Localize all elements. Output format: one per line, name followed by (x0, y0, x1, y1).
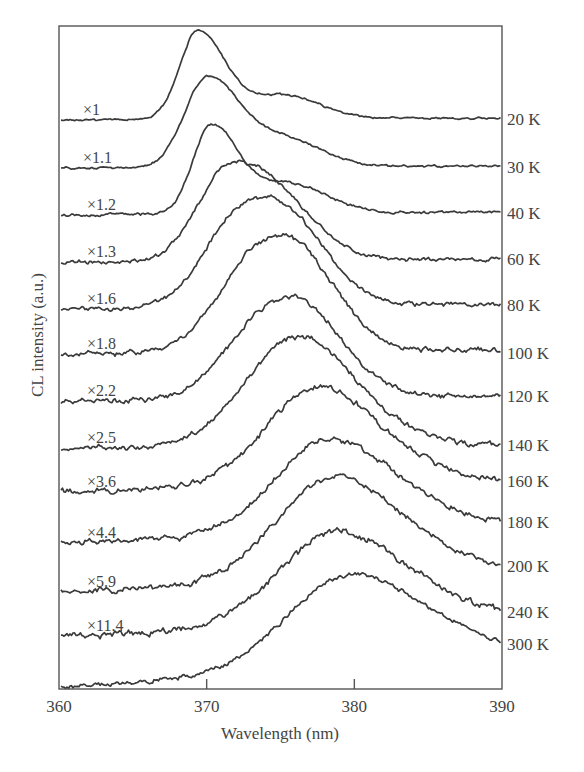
temperature-label: 300 K (507, 635, 550, 654)
temperature-label: 80 K (507, 296, 541, 315)
multiplier-label: ×2.5 (87, 429, 116, 446)
x-axis-title: Wavelength (nm) (221, 724, 339, 743)
x-axis-ticks: 360370380390 (46, 679, 515, 716)
spectrum-curve-240k (61, 528, 501, 639)
temperature-label: 30 K (507, 158, 541, 177)
multiplier-label: ×5.9 (87, 573, 116, 590)
multiplier-label: ×11.4 (87, 617, 123, 634)
temperature-label: 200 K (507, 557, 550, 576)
x-tick-label: 390 (489, 697, 515, 716)
temperature-label: 100 K (507, 344, 550, 363)
temperature-label: 40 K (507, 204, 541, 223)
x-tick-label: 380 (342, 697, 368, 716)
multiplier-labels: ×1×1.1×1.2×1.3×1.6×1.8×2.2×2.5×3.6×4.4×5… (83, 101, 123, 634)
temperature-labels: 20 K30 K40 K60 K80 K100 K120 K140 K160 K… (507, 110, 550, 654)
temperature-label: 180 K (507, 513, 550, 532)
spectrum-curve-20k (61, 30, 501, 121)
cl-spectra-chart: ×1×1.1×1.2×1.3×1.6×1.8×2.2×2.5×3.6×4.4×5… (0, 0, 584, 772)
multiplier-label: ×1.2 (87, 196, 116, 213)
spectrum-curve-200k (61, 474, 501, 593)
temperature-label: 120 K (507, 387, 550, 406)
multiplier-label: ×2.2 (87, 382, 116, 399)
multiplier-label: ×1.8 (87, 335, 116, 352)
spectrum-curve-300k (61, 573, 501, 689)
multiplier-label: ×1 (83, 101, 100, 118)
spectrum-curve-30k (61, 75, 501, 169)
plot-frame (59, 26, 502, 689)
x-tick-label: 370 (194, 697, 220, 716)
multiplier-label: ×4.4 (87, 524, 116, 541)
temperature-label: 20 K (507, 110, 541, 129)
spectra-curves (61, 30, 501, 689)
multiplier-label: ×1.6 (87, 290, 116, 307)
temperature-label: 160 K (507, 472, 550, 491)
spectrum-curve-100k (61, 234, 501, 356)
multiplier-label: ×1.3 (87, 243, 116, 260)
multiplier-label: ×1.1 (83, 149, 112, 166)
temperature-label: 140 K (507, 436, 550, 455)
temperature-label: 60 K (507, 250, 541, 269)
y-axis-title: CL intensity (a.u.) (28, 273, 47, 397)
temperature-label: 240 K (507, 603, 550, 622)
multiplier-label: ×3.6 (87, 473, 116, 490)
x-tick-label: 360 (46, 697, 72, 716)
spectrum-curve-120k (61, 294, 501, 403)
